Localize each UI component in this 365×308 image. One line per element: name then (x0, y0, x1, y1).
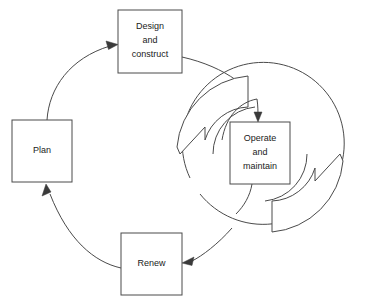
lifecycle-diagram: Design and construct Plan Renew Operate … (0, 0, 365, 308)
node-operate-maintain[interactable]: Operate and maintain (230, 122, 290, 184)
node-design-construct-label-line2: and (142, 35, 157, 45)
inner-loop-arc-bottom (236, 184, 252, 214)
node-design-construct-label-line1: Design (136, 21, 164, 31)
node-operate-maintain-label-line2: and (252, 147, 267, 157)
node-operate-maintain-label-line3: maintain (243, 161, 277, 171)
node-renew-label: Renew (137, 258, 166, 268)
arrowhead-into-renew (182, 257, 194, 266)
node-operate-maintain-label-line1: Operate (244, 133, 277, 143)
connector-renew-to-plan-line (50, 194, 121, 268)
connector-plan-to-design (47, 41, 118, 120)
node-plan-label: Plan (33, 145, 51, 155)
connector-design-to-operate-line (182, 57, 236, 80)
node-design-construct-label-line3: construct (132, 49, 169, 59)
connector-design-to-operate (182, 57, 236, 80)
node-renew[interactable]: Renew (121, 233, 182, 295)
diagram-canvas: Design and construct Plan Renew Operate … (0, 0, 365, 308)
connector-renew-to-plan (42, 184, 121, 268)
connector-operate-to-renew-line (192, 228, 232, 261)
connector-operate-to-renew (182, 228, 232, 266)
connector-plan-to-design-line (47, 46, 110, 120)
arrowhead-into-design (106, 41, 118, 50)
node-design-construct[interactable]: Design and construct (118, 10, 182, 73)
arrowhead-into-operate (254, 112, 262, 122)
node-plan[interactable]: Plan (12, 120, 72, 182)
